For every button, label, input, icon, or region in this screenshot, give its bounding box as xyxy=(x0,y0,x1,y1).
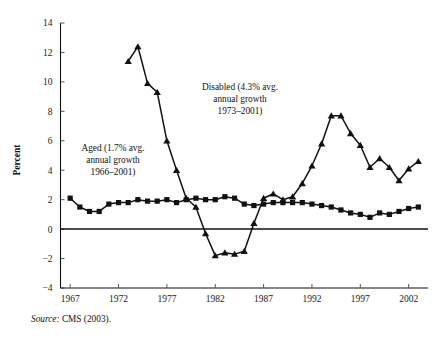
data-marker-square xyxy=(174,200,179,205)
annotation-aged-line3: 1966–2001) xyxy=(91,167,136,178)
x-tick-label: 1982 xyxy=(206,294,225,304)
data-marker-square xyxy=(155,199,160,204)
data-marker-triangle xyxy=(270,190,277,196)
y-tick-label: 8 xyxy=(48,107,53,117)
data-marker-triangle xyxy=(163,137,170,143)
series-aged xyxy=(68,194,421,220)
data-marker-square xyxy=(309,201,314,206)
growth-rate-line-chart: −4−202468101214 196719721977198219871992… xyxy=(0,0,442,342)
data-marker-square xyxy=(271,200,276,205)
y-tick-label: 4 xyxy=(48,166,53,176)
data-marker-square xyxy=(106,201,111,206)
data-marker-square xyxy=(290,200,295,205)
annotation-disabled: Disabled (4.3% avg. annual growth 1973–2… xyxy=(202,82,278,117)
data-marker-square xyxy=(348,210,353,215)
data-marker-square xyxy=(193,196,198,201)
data-marker-triangle xyxy=(299,180,306,186)
data-marker-square xyxy=(87,209,92,214)
y-tick-label: −4 xyxy=(42,283,52,293)
y-tick-label: 0 xyxy=(48,225,53,235)
x-tick-label: 1987 xyxy=(254,294,273,304)
data-marker-square xyxy=(387,212,392,217)
data-marker-square xyxy=(338,207,343,212)
data-marker-triangle xyxy=(415,158,422,164)
data-marker-triangle xyxy=(241,248,248,254)
data-marker-triangle xyxy=(308,162,315,168)
data-marker-square xyxy=(377,210,382,215)
y-tick-label: 2 xyxy=(48,195,53,205)
y-tick-label: 14 xyxy=(43,18,53,28)
source-text: CMS (2003). xyxy=(62,314,111,324)
y-axis-ticks: −4−202468101214 xyxy=(42,18,64,293)
data-marker-triangle xyxy=(347,130,354,136)
series-disabled xyxy=(125,43,422,258)
y-tick-label: 6 xyxy=(48,136,53,146)
data-marker-square xyxy=(251,203,256,208)
data-marker-square xyxy=(329,204,334,209)
data-marker-triangle xyxy=(173,167,180,173)
data-marker-square xyxy=(300,200,305,205)
x-tick-label: 2002 xyxy=(399,294,418,304)
x-tick-label: 1997 xyxy=(351,294,370,304)
data-marker-triangle xyxy=(144,80,151,86)
y-tick-label: 12 xyxy=(43,48,53,58)
data-marker-square xyxy=(367,215,372,220)
y-axis-title: Percent xyxy=(12,144,22,176)
data-marker-square xyxy=(242,201,247,206)
data-marker-square xyxy=(358,212,363,217)
data-marker-square xyxy=(416,204,421,209)
annotation-aged-line1: Aged (1.7% avg. xyxy=(82,143,145,154)
data-marker-triangle xyxy=(134,43,141,49)
x-tick-label: 1977 xyxy=(157,294,176,304)
annotation-disabled-line3: 1973–2001) xyxy=(218,106,263,117)
series-line-disabled xyxy=(128,47,418,256)
data-marker-square xyxy=(222,194,227,199)
data-marker-square xyxy=(145,199,150,204)
data-marker-square xyxy=(232,196,237,201)
data-marker-triangle xyxy=(376,155,383,161)
data-marker-square xyxy=(126,200,131,205)
figure-container: −4−202468101214 196719721977198219871992… xyxy=(0,0,442,342)
data-marker-square xyxy=(135,197,140,202)
y-tick-label: −2 xyxy=(42,254,52,264)
annotation-disabled-line2: annual growth xyxy=(213,94,267,104)
x-tick-label: 1992 xyxy=(302,294,321,304)
data-marker-triangle xyxy=(250,220,257,226)
data-marker-square xyxy=(97,209,102,214)
annotation-aged: Aged (1.7% avg. annual growth 1966–2001) xyxy=(82,143,145,178)
data-marker-square xyxy=(406,206,411,211)
data-marker-square xyxy=(77,204,82,209)
data-marker-triangle xyxy=(202,230,209,236)
y-axis-group: −4−202468101214 xyxy=(42,18,64,293)
data-marker-square xyxy=(164,197,169,202)
data-marker-square xyxy=(116,200,121,205)
source-label: Source: xyxy=(31,314,60,324)
annotation-disabled-line1: Disabled (4.3% avg. xyxy=(202,82,278,93)
annotation-aged-line2: annual growth xyxy=(86,155,140,165)
source-note: Source: CMS (2003). xyxy=(31,314,111,324)
y-tick-label: 10 xyxy=(43,77,53,87)
x-tick-label: 1972 xyxy=(109,294,128,304)
data-marker-triangle xyxy=(318,140,325,146)
data-marker-square xyxy=(396,209,401,214)
data-marker-square xyxy=(213,197,218,202)
x-axis-group: 19671972197719821987199219972002 xyxy=(61,284,429,304)
data-marker-square xyxy=(68,196,73,201)
x-tick-label: 1967 xyxy=(61,294,80,304)
data-marker-square xyxy=(319,203,324,208)
x-axis-ticks: 19671972197719821987199219972002 xyxy=(61,284,419,304)
series-line-aged xyxy=(70,197,418,218)
data-marker-square xyxy=(203,197,208,202)
